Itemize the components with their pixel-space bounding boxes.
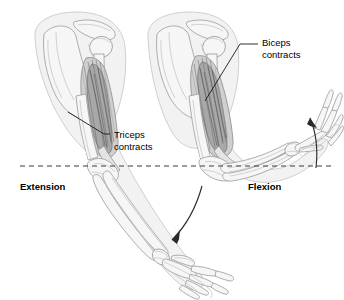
triceps-label-line1: Triceps [114,129,145,140]
flexion-label: Flexion [248,181,281,192]
biceps-label-line2: contracts [262,49,301,60]
extension-label: Extension [20,181,66,192]
biceps-label-line1: Biceps [262,37,291,48]
triceps-label-line2: contracts [114,141,153,152]
anatomy-figure: Biceps contracts Triceps contracts Exten… [0,0,344,300]
arm-flexion-extension-illustration: Biceps contracts Triceps contracts Exten… [0,0,344,300]
